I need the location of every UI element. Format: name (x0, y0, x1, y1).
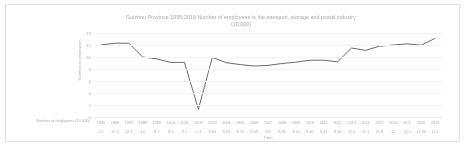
gridline (94, 69, 442, 70)
x-axis-tick-label: 2005 (233, 120, 247, 125)
gridline (94, 57, 442, 58)
data-value-cell: 8.74 (233, 129, 247, 134)
x-axis-tick-label: 2019 (428, 120, 442, 125)
data-value-cell: 10 (136, 129, 150, 134)
x-axis-title: Time (94, 135, 442, 140)
x-axis-tick-label: 1999 (150, 120, 164, 125)
y-axis-ticks: 14121086420 (74, 33, 91, 117)
data-value-cell: 1.3 (191, 129, 205, 134)
x-axis-tick-label: 1998 (136, 120, 150, 125)
data-table: 1995199619971998199920002001200220032004… (94, 117, 442, 137)
x-axis-tick-label: 2007 (261, 120, 275, 125)
gridline (94, 81, 442, 82)
data-value-cell: 9.47 (317, 129, 331, 134)
data-value-cell: 12 (94, 129, 108, 134)
x-axis-tick-label: 2001 (178, 120, 192, 125)
y-axis-tick-label: 14 (86, 31, 91, 36)
gridline (94, 105, 442, 106)
data-value-cell: 9.7 (150, 129, 164, 134)
data-value-cell: 9.14 (289, 129, 303, 134)
x-axis-tick-label: 2002 (191, 120, 205, 125)
x-axis-tick-label: 2006 (247, 120, 261, 125)
data-value-cell: 12.2 (400, 129, 414, 134)
data-value-cell: 9.1 (178, 129, 192, 134)
x-axis-tick-label: 2016 (386, 120, 400, 125)
data-value-cell: 8.49 (247, 129, 261, 134)
gridline (94, 33, 442, 34)
x-axis-tick-label: 2018 (414, 120, 428, 125)
x-axis-tick-label: 2015 (372, 120, 386, 125)
table-row-years: 1995199619971998199920002001200220032004… (94, 117, 442, 127)
data-value-cell: 8.6 (261, 129, 275, 134)
gridline (94, 93, 442, 94)
x-axis-tick-label: 2004 (219, 120, 233, 125)
x-axis-tick-label: 2011 (317, 120, 331, 125)
y-axis-tick-label: 12 (86, 43, 91, 48)
y-axis-tick-label: 2 (89, 103, 91, 108)
x-axis-tick-label: 1997 (122, 120, 136, 125)
data-value-cell: 9.46 (303, 129, 317, 134)
data-value-cell: 11.8 (372, 129, 386, 134)
data-value-cell: 8.91 (275, 129, 289, 134)
data-value-cell: 11.96 (414, 129, 428, 134)
x-axis-tick-label: 2010 (303, 120, 317, 125)
data-value-cell: 9.1 (164, 129, 178, 134)
chart-frame: Guizhou Province 1995-2019 Number of emp… (5, 4, 460, 142)
data-value-cell: 12 (386, 129, 400, 134)
x-axis-tick-label: 2012 (331, 120, 345, 125)
chart-title-line2: (10,000) (66, 21, 416, 28)
x-axis-tick-label: 2000 (164, 120, 178, 125)
plot-area (94, 33, 442, 117)
x-axis-tick-label: 2003 (205, 120, 219, 125)
data-value-cell: 11.1 (359, 129, 373, 134)
x-axis-tick-label: 2008 (275, 120, 289, 125)
x-axis-tick-label: 1996 (108, 120, 122, 125)
series-row-label: Number of employees (10,000) (34, 118, 92, 123)
x-axis-tick-label: 1995 (94, 120, 108, 125)
gridline (94, 45, 442, 46)
y-axis-tick-label: 8 (89, 67, 91, 72)
y-axis-tick-label: 10 (86, 55, 91, 60)
chart-title-line1: Guizhou Province 1995-2019 Number of emp… (126, 14, 356, 20)
x-axis-tick-label: 2013 (345, 120, 359, 125)
data-value-cell: 12.3 (122, 129, 136, 134)
data-value-cell: 12.3 (108, 129, 122, 134)
x-axis-tick-label: 2017 (400, 120, 414, 125)
y-axis-tick-label: 6 (89, 79, 91, 84)
data-value-cell: 9.05 (219, 129, 233, 134)
data-value-cell: 13.1 (428, 129, 442, 134)
x-axis-tick-label: 2009 (289, 120, 303, 125)
data-value-cell: 9.94 (205, 129, 219, 134)
data-value-cell: 11.5 (345, 129, 359, 134)
chart-title: Guizhou Province 1995-2019 Number of emp… (66, 14, 416, 28)
y-axis-tick-label: 4 (89, 91, 91, 96)
x-axis-tick-label: 2014 (359, 120, 373, 125)
data-value-cell: 9.19 (331, 129, 345, 134)
